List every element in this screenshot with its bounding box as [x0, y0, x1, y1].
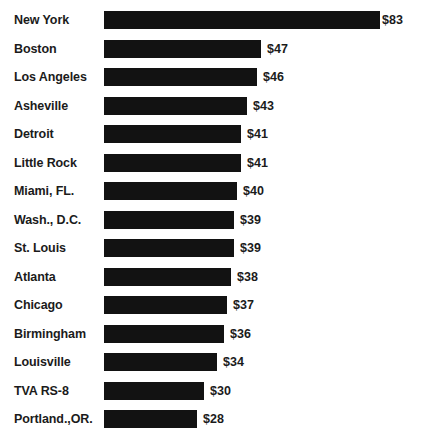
category-label: Louisville	[14, 355, 71, 369]
horizontal-bar-chart: New York$83Boston$47Los Angeles$46Ashevi…	[0, 0, 424, 432]
chart-row: Asheville$43	[0, 92, 424, 120]
chart-row: Louisville$34	[0, 348, 424, 376]
category-label: Boston	[14, 42, 56, 56]
value-label: $41	[247, 156, 268, 170]
chart-row: Detroit$41	[0, 120, 424, 148]
bar-group: $46	[104, 68, 284, 86]
chart-row: Birmingham$36	[0, 320, 424, 348]
bar	[104, 11, 380, 29]
category-label: Birmingham	[14, 327, 86, 341]
bar	[104, 410, 197, 428]
value-label: $46	[263, 70, 284, 84]
bar-group: $30	[104, 382, 231, 400]
bar	[104, 97, 247, 115]
bar-group: $36	[104, 325, 251, 343]
bar	[104, 325, 224, 343]
bar-group: $38	[104, 268, 258, 286]
category-label: Los Angeles	[14, 70, 87, 84]
value-label: $28	[203, 412, 224, 426]
value-label: $41	[247, 127, 268, 141]
bar-group: $39	[104, 239, 261, 257]
bar-group: $41	[104, 125, 268, 143]
bar	[104, 296, 227, 314]
bar	[104, 68, 257, 86]
chart-row: Chicago$37	[0, 291, 424, 319]
category-label: Chicago	[14, 298, 63, 312]
bar-group: $40	[104, 182, 264, 200]
bar-group: $83	[104, 11, 403, 29]
bar	[104, 211, 234, 229]
bar	[104, 353, 217, 371]
category-label: Portland.,OR.	[14, 412, 93, 426]
bar-group: $39	[104, 211, 261, 229]
bar-group: $47	[104, 40, 288, 58]
bar	[104, 239, 234, 257]
chart-row: Miami, FL.$40	[0, 177, 424, 205]
chart-row: Wash., D.C.$39	[0, 206, 424, 234]
value-label: $43	[253, 99, 274, 113]
chart-row: St. Louis$39	[0, 234, 424, 262]
value-label: $30	[210, 384, 231, 398]
bar	[104, 125, 241, 143]
value-label: $34	[223, 355, 244, 369]
value-label: $38	[237, 270, 258, 284]
bar-group: $28	[104, 410, 224, 428]
chart-row: New York$83	[0, 6, 424, 34]
value-label: $37	[233, 298, 254, 312]
bar	[104, 382, 204, 400]
value-label: $40	[243, 184, 264, 198]
category-label: Miami, FL.	[14, 184, 74, 198]
bar-group: $43	[104, 97, 274, 115]
value-label: $39	[240, 213, 261, 227]
value-label: $36	[230, 327, 251, 341]
chart-row: Little Rock$41	[0, 149, 424, 177]
value-label: $47	[267, 42, 288, 56]
category-label: Wash., D.C.	[14, 213, 81, 227]
chart-row: TVA RS-8$30	[0, 377, 424, 405]
category-label: Detroit	[14, 127, 54, 141]
bar	[104, 182, 237, 200]
value-label: $39	[240, 241, 261, 255]
category-label: St. Louis	[14, 241, 66, 255]
bar-group: $34	[104, 353, 244, 371]
category-label: Asheville	[14, 99, 68, 113]
chart-row: Portland.,OR.$28	[0, 405, 424, 432]
chart-row: Atlanta$38	[0, 263, 424, 291]
chart-row: Boston$47	[0, 35, 424, 63]
chart-row: Los Angeles$46	[0, 63, 424, 91]
bar-group: $37	[104, 296, 254, 314]
category-label: Little Rock	[14, 156, 77, 170]
bar	[104, 40, 261, 58]
bar-group: $41	[104, 154, 268, 172]
value-label: $83	[382, 13, 403, 27]
category-label: TVA RS-8	[14, 384, 69, 398]
bar	[104, 268, 231, 286]
category-label: Atlanta	[14, 270, 56, 284]
bar	[104, 154, 241, 172]
category-label: New York	[14, 13, 69, 27]
